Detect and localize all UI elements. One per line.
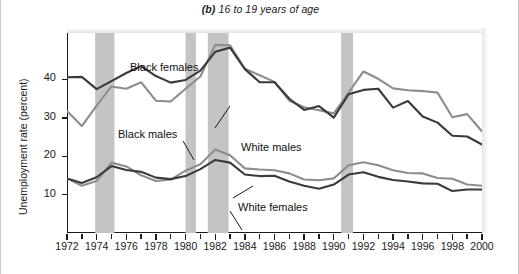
x-axis-tick-label: 1990: [318, 240, 350, 252]
figure-title: (b) 16 to 19 years of age: [1, 3, 519, 15]
x-axis-tick-label: 1974: [81, 240, 113, 252]
x-axis-tick-label: 1996: [407, 240, 439, 252]
x-axis-tick-label: 2000: [466, 240, 498, 252]
x-axis-tick-mark: [407, 234, 408, 239]
figure-panel-letter: (b): [202, 3, 216, 15]
y-axis-tick-label: 30: [30, 110, 56, 122]
recession-band: [95, 33, 114, 233]
x-axis-tick-mark: [111, 234, 112, 239]
x-axis-tick-label: 1978: [140, 240, 172, 252]
leader-white-males: [233, 186, 253, 198]
x-axis-tick-mark: [289, 234, 290, 239]
x-axis-tick-mark: [378, 234, 379, 239]
figure-panel: (b) 16 to 19 years of age Unemployment r…: [0, 0, 519, 274]
plot-right-edge-shading: [482, 28, 488, 233]
y-axis-title: Unemployment rate (percent): [17, 78, 29, 215]
x-axis-tick-label: 1982: [199, 240, 231, 252]
x-axis-tick-label: 1976: [110, 240, 142, 252]
series-label-black-males: Black males: [118, 128, 177, 140]
series-label-black-females: Black females: [130, 61, 198, 73]
series-line-white-males: [67, 150, 482, 186]
x-axis-tick-label: 1972: [51, 240, 83, 252]
recession-band: [208, 33, 229, 233]
x-axis-tick-label: 1984: [229, 240, 261, 252]
leader-white-females: [230, 211, 242, 230]
x-axis-tick-mark: [81, 234, 82, 239]
x-axis-tick-mark: [318, 234, 319, 239]
recession-band: [341, 33, 353, 233]
x-axis-tick-label: 1986: [259, 240, 291, 252]
x-axis-tick-label: 1992: [347, 240, 379, 252]
x-axis-tick-label: 1988: [288, 240, 320, 252]
y-axis-tick-label: 10: [30, 187, 56, 199]
x-axis-tick-mark: [140, 234, 141, 239]
x-axis-tick-label: 1998: [436, 240, 468, 252]
x-axis-tick-mark: [229, 234, 230, 239]
x-axis-tick-mark: [259, 234, 260, 239]
x-axis-tick-mark: [437, 234, 438, 239]
series-line-white-females: [67, 160, 482, 191]
y-axis-tick-label: 40: [30, 71, 56, 83]
x-axis-tick-mark: [348, 234, 349, 239]
series-label-white-males: White males: [241, 141, 302, 153]
y-axis-tick-label: 20: [30, 148, 56, 160]
x-axis-tick-mark: [200, 234, 201, 239]
x-axis-tick-mark: [170, 234, 171, 239]
figure-title-text: 16 to 19 years of age: [215, 3, 319, 15]
series-label-white-females: White females: [238, 201, 308, 213]
x-axis-tick-label: 1994: [377, 240, 409, 252]
x-axis-tick-label: 1980: [170, 240, 202, 252]
series-line-black-males: [67, 45, 482, 132]
x-axis-tick-mark: [466, 234, 467, 239]
